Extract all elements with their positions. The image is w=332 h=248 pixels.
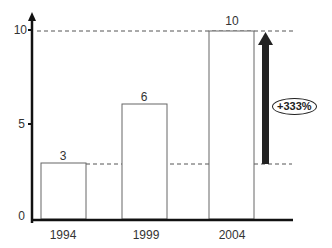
growth-arrow-head-icon xyxy=(258,32,273,45)
ytick-label-5: 5 xyxy=(5,118,25,130)
bar-chart: 10 5 0 3 6 10 1994 1999 2004 +333% xyxy=(0,0,332,248)
xtick-label-1994: 1994 xyxy=(43,229,83,241)
y-axis-arrowhead-icon xyxy=(28,12,36,21)
ytick-label-10: 10 xyxy=(7,24,27,36)
bar-1994 xyxy=(41,163,86,219)
growth-percent-badge: +333% xyxy=(272,98,317,115)
value-label-1999: 6 xyxy=(124,91,164,103)
bar-2004 xyxy=(209,31,254,219)
xtick-label-1999: 1999 xyxy=(126,229,166,241)
value-label-2004: 10 xyxy=(212,15,252,27)
chart-canvas xyxy=(0,0,332,248)
ytick-label-0: 0 xyxy=(5,210,25,222)
xtick-label-2004: 2004 xyxy=(212,229,252,241)
bar-1999 xyxy=(122,104,167,219)
value-label-1994: 3 xyxy=(43,150,83,162)
growth-arrow-shaft xyxy=(262,44,269,164)
